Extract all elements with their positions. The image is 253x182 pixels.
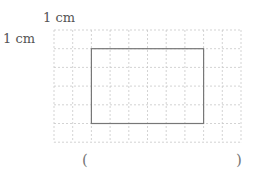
grid-diagram <box>0 0 253 182</box>
answer-open-paren: ( <box>82 151 88 169</box>
answer-close-paren: ) <box>236 151 242 169</box>
